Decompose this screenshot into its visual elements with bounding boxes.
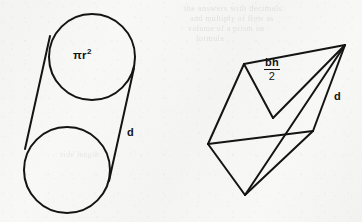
- prism-bottom-to-apex-edge: [245, 45, 345, 195]
- prism-depth-label: d: [334, 90, 341, 102]
- scanned-page: the answers with decimals. and multiply …: [0, 0, 362, 222]
- prism-area-formula-label: bh 2: [264, 57, 280, 82]
- prism-left-back-edge: [208, 64, 244, 144]
- prism-bottom-right-edge: [245, 131, 313, 195]
- cylinder-depth-label: d: [127, 126, 134, 138]
- cylinder-top-base-circle: [49, 14, 135, 100]
- prism-area-numerator: bh: [264, 57, 280, 70]
- cylinder-area-formula-label: πr2: [73, 49, 92, 61]
- prism-base-front-edge: [208, 131, 313, 144]
- geometry-figures-svg: [0, 0, 362, 222]
- cylinder-bottom-base-circle: [24, 127, 110, 213]
- cylinder-figure: [24, 14, 135, 213]
- prism-bottom-left-edge: [208, 144, 245, 195]
- cylinder-area-formula-base: πr: [73, 49, 87, 61]
- prism-area-denominator: 2: [264, 70, 280, 82]
- cylinder-area-formula-exponent: 2: [87, 47, 92, 56]
- cylinder-right-edge: [109, 68, 134, 181]
- prism-right-vertical-edge: [313, 45, 345, 131]
